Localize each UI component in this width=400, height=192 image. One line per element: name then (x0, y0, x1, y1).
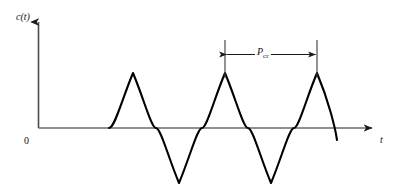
figure-canvas (0, 0, 400, 192)
waveform-figure: c(t) t 0 Pcr (0, 0, 400, 192)
period-label: Pcr (255, 47, 271, 60)
x-axis-label: t (380, 135, 383, 145)
origin-label: 0 (24, 136, 29, 146)
period-subscript: cr (263, 52, 269, 60)
y-axis-label: c(t) (16, 12, 30, 22)
